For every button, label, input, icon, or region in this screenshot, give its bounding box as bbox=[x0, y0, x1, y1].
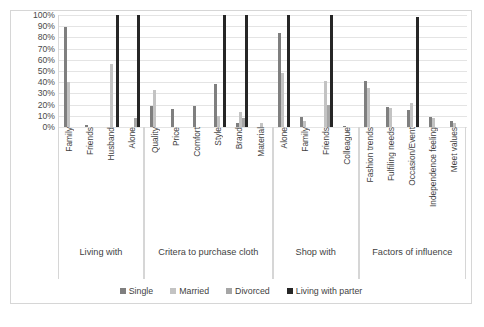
bar-cluster bbox=[85, 15, 97, 127]
bar-cluster bbox=[128, 15, 140, 127]
bar-cluster bbox=[300, 15, 312, 127]
bar-group bbox=[59, 15, 145, 127]
y-axis-tick: 80% bbox=[38, 33, 55, 42]
category-label: Meet values bbox=[450, 127, 459, 174]
bar-cluster bbox=[343, 15, 355, 127]
bar[interactable] bbox=[410, 103, 413, 127]
category-label: Material bbox=[257, 127, 266, 159]
bar[interactable] bbox=[416, 17, 419, 127]
legend-label: Married bbox=[179, 286, 209, 296]
legend-swatch-icon bbox=[120, 288, 126, 294]
bar-cluster bbox=[364, 15, 376, 127]
category-label: Fulfiling needs bbox=[387, 127, 396, 183]
plot-wrapper: 100%90%80%70%60%50%40%30%20%10%0% bbox=[11, 15, 473, 143]
bar-cluster bbox=[429, 15, 441, 127]
bar[interactable] bbox=[116, 15, 119, 127]
bar[interactable] bbox=[367, 88, 370, 127]
category-label: Alone bbox=[128, 127, 137, 150]
y-axis-tick: 70% bbox=[38, 44, 55, 53]
bar[interactable] bbox=[432, 118, 435, 127]
bar-cluster bbox=[150, 15, 162, 127]
bar[interactable] bbox=[217, 116, 220, 127]
bar[interactable] bbox=[153, 90, 156, 127]
category-group-box: FamilyFriendsHusbandAlone bbox=[58, 127, 144, 235]
category-label: Style bbox=[214, 127, 223, 148]
bar-cluster bbox=[257, 15, 269, 127]
legend-swatch-icon bbox=[170, 288, 176, 294]
category-group-box: QualityPriceComfortStyleBrandMaterial bbox=[144, 127, 273, 235]
bar-cluster bbox=[107, 15, 119, 127]
bar-cluster bbox=[193, 15, 205, 127]
bar[interactable] bbox=[137, 15, 140, 127]
bar-cluster bbox=[278, 15, 290, 127]
bar-cluster bbox=[214, 15, 226, 127]
bar[interactable] bbox=[330, 15, 333, 127]
group-title: Living with bbox=[79, 247, 122, 258]
y-axis-tick: 100% bbox=[33, 11, 55, 20]
category-label: Independence feeling bbox=[429, 127, 438, 209]
bar[interactable] bbox=[193, 106, 196, 127]
category-label: Friends bbox=[86, 127, 95, 157]
category-label: Fashion trends bbox=[366, 127, 375, 184]
bar-cluster bbox=[321, 15, 333, 127]
bar-cluster bbox=[171, 15, 183, 127]
bar[interactable] bbox=[287, 15, 290, 127]
legend-item[interactable]: Married bbox=[170, 286, 209, 296]
legend-item[interactable]: Single bbox=[120, 286, 153, 296]
bar[interactable] bbox=[171, 109, 174, 127]
legend-label: Divorced bbox=[235, 286, 270, 296]
category-label: Price bbox=[172, 127, 181, 148]
y-axis-tick: 50% bbox=[38, 67, 55, 76]
plot-area bbox=[58, 15, 467, 128]
group-title-box: Factors of influence bbox=[359, 235, 466, 279]
category-label: Friends bbox=[322, 127, 331, 157]
category-label-band: FamilyFriendsHusbandAloneQualityPriceCom… bbox=[58, 127, 466, 235]
group-title-band: Living withCritera to purchase clothShop… bbox=[58, 235, 466, 279]
legend-swatch-icon bbox=[226, 288, 232, 294]
bar[interactable] bbox=[110, 64, 113, 127]
bar-cluster bbox=[450, 15, 462, 127]
category-label: Quality bbox=[151, 127, 160, 155]
category-label: Family bbox=[65, 127, 74, 154]
category-label: Husband bbox=[107, 127, 116, 163]
bar[interactable] bbox=[67, 82, 70, 127]
bar-group bbox=[360, 15, 467, 127]
y-axis-tick: 30% bbox=[38, 89, 55, 98]
group-title: Shop with bbox=[296, 247, 336, 258]
bar-group bbox=[145, 15, 274, 127]
chart-legend: SingleMarriedDivorcedLiving with parter bbox=[11, 281, 471, 301]
category-label: Comfort bbox=[193, 127, 202, 159]
category-label: Brand bbox=[235, 127, 244, 151]
category-label: Family bbox=[301, 127, 310, 154]
bar[interactable] bbox=[281, 73, 284, 127]
group-title-box: Shop with bbox=[273, 235, 359, 279]
legend-label: Living with parter bbox=[296, 286, 363, 296]
y-axis-tick: 60% bbox=[38, 56, 55, 65]
chart-container: 100%90%80%70%60%50%40%30%20%10%0% Family… bbox=[10, 10, 472, 304]
bar-cluster bbox=[236, 15, 248, 127]
category-label: Occasion/Event bbox=[408, 127, 417, 188]
bar-cluster bbox=[64, 15, 76, 127]
bar[interactable] bbox=[223, 15, 226, 127]
legend-item[interactable]: Living with parter bbox=[287, 286, 363, 296]
bar[interactable] bbox=[245, 15, 248, 127]
category-label: Colleague bbox=[343, 127, 352, 167]
y-axis-tick: 20% bbox=[38, 100, 55, 109]
bar[interactable] bbox=[389, 108, 392, 127]
group-title: Factors of influence bbox=[372, 247, 452, 258]
bar-group bbox=[274, 15, 360, 127]
y-axis-tick: 0% bbox=[43, 123, 55, 132]
category-label: Alone bbox=[280, 127, 289, 150]
y-axis: 100%90%80%70%60%50%40%30%20%10%0% bbox=[11, 15, 58, 127]
bar-groups bbox=[59, 15, 467, 127]
category-group-box: AloneFamilyFriendsColleague bbox=[273, 127, 359, 235]
group-title: Critera to purchase cloth bbox=[158, 247, 258, 258]
y-axis-tick: 40% bbox=[38, 78, 55, 87]
bar-cluster bbox=[386, 15, 398, 127]
group-title-box: Critera to purchase cloth bbox=[144, 235, 273, 279]
group-title-box: Living with bbox=[58, 235, 144, 279]
bar-cluster bbox=[407, 15, 419, 127]
category-group-box: Fashion trendsFulfiling needsOccasion/Ev… bbox=[359, 127, 466, 235]
y-axis-tick: 90% bbox=[38, 22, 55, 31]
legend-item[interactable]: Divorced bbox=[226, 286, 270, 296]
